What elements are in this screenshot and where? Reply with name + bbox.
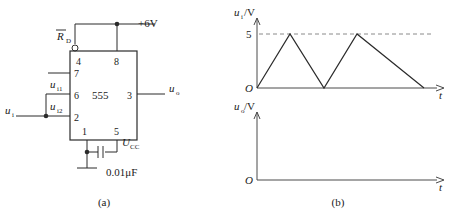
chart-ui-ytick-5: 5 — [246, 28, 252, 40]
figure-root: +6V R D 555 4 8 7 6 2 3 1 5 u i1 u i2 u … — [0, 0, 464, 221]
chart-uo-ylabel-var: u — [234, 100, 240, 112]
reset-sub-label: D — [66, 37, 71, 45]
caption-b: (b) — [318, 196, 358, 208]
pin-1-label: 1 — [82, 126, 87, 137]
ui2-label: u — [50, 100, 56, 112]
ui-label: u — [5, 104, 11, 116]
chart-uo-origin-label: O — [245, 174, 253, 186]
pin-3-label: 3 — [127, 90, 132, 101]
chart-uo-ylabel-unit: /V — [244, 100, 255, 112]
circuit-diagram: +6V R D 555 4 8 7 6 2 3 1 5 u i1 u i2 u … — [0, 0, 232, 200]
pin-5-label: 5 — [114, 126, 119, 137]
pin-7-label: 7 — [74, 68, 79, 79]
ui-sub-label: i — [12, 111, 14, 119]
chart-ui-origin-label: O — [245, 82, 253, 94]
pin-2-label: 2 — [74, 112, 79, 123]
chart-ui: u i /V t O 5 — [234, 6, 444, 101]
cap-value-label: 0.01μF — [106, 166, 137, 178]
chart-ui-ylabel-var: u — [234, 6, 240, 18]
chart-ui-ylabel-unit: /V — [244, 6, 255, 18]
reset-bubble-icon — [72, 45, 78, 51]
ui1-label: u — [50, 78, 56, 90]
chart-uo: u o /V t O — [234, 100, 444, 193]
chart-ui-trace — [257, 34, 424, 88]
waveform-charts: u i /V t O 5 u o /V t O — [232, 0, 464, 200]
uo-sub-label: o — [176, 89, 180, 97]
pin-6-label: 6 — [74, 90, 79, 101]
ui1-sub-label: i1 — [57, 85, 63, 93]
reset-label: R — [56, 30, 64, 42]
ic-label-555: 555 — [92, 89, 109, 101]
supply-junction-dot — [115, 22, 120, 27]
chart-ui-xlabel: t — [439, 89, 443, 101]
ucc-sub-label: CC — [130, 143, 140, 151]
chart-uo-xlabel: t — [439, 181, 443, 193]
uo-label: u — [169, 82, 175, 94]
pin-8-label: 8 — [114, 56, 119, 67]
caption-a: (a) — [84, 196, 124, 208]
input-junction-dot — [44, 114, 49, 119]
ui2-sub-label: i2 — [57, 107, 63, 115]
cap-junction-dot — [85, 150, 90, 155]
chart-ui-ylabel-sub: i — [241, 13, 243, 21]
supply-label: +6V — [138, 17, 158, 29]
pin-4-label: 4 — [76, 56, 81, 67]
